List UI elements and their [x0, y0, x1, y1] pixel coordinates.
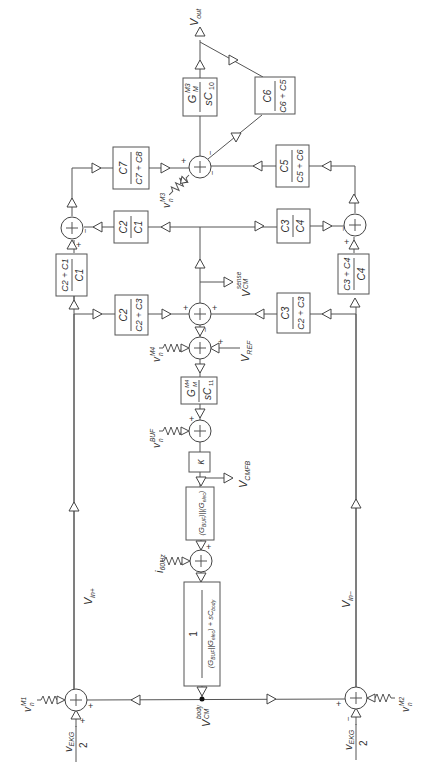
svg-text:n: n [406, 702, 413, 706]
svg-text:2: 2 [358, 740, 369, 746]
svg-text:G: G [186, 94, 198, 103]
svg-text:G: G [186, 389, 197, 397]
svg-text:−: − [344, 716, 353, 721]
vin-minus-label: Vin− [340, 591, 354, 608]
svg-text:C6 + C5: C6 + C5 [278, 78, 288, 112]
svg-text:Vout: Vout [188, 8, 202, 26]
block-gm4: G M M4 sC 11 [181, 377, 217, 404]
svg-text:M3: M3 [159, 193, 166, 202]
svg-text:−: − [208, 170, 217, 175]
svg-text:1: 1 [188, 631, 199, 637]
svg-text:C2 + C3: C2 + C3 [134, 298, 144, 331]
i60hz-label: i60Hz [153, 554, 166, 573]
svg-text:C3 + C4: C3 + C4 [342, 257, 352, 290]
svg-text:i60Hz: i60Hz [153, 554, 166, 573]
svg-text:Vin+: Vin+ [82, 588, 96, 605]
vcm-body-node [200, 697, 205, 702]
svg-text:−: − [206, 150, 215, 155]
vout-label: Vout [188, 8, 202, 26]
block-c3-c4: C3 C4 [277, 209, 310, 243]
svg-text:2: 2 [78, 742, 89, 748]
svg-text:M1: M1 [20, 697, 27, 706]
svg-text:C5 + C6: C5 + C6 [295, 149, 305, 182]
block-c3-plus-c4: C3 + C4 C4 [338, 254, 369, 294]
sum-bottom-left [65, 689, 87, 711]
svg-text:−: − [81, 228, 90, 233]
svg-text:C1: C1 [74, 269, 85, 282]
svg-text:10: 10 [208, 82, 215, 90]
cmfb-block-diagram: G M M3 sC 10 C6 C6 + C5 C7 C7 + C8 C5 C5… [0, 0, 430, 778]
block-c2-plus-c1: C2 + C1 C1 [56, 254, 87, 296]
vin-plus-label: Vin+ [82, 588, 96, 605]
svg-text:VREF: VREF [239, 340, 253, 362]
svg-text:M2: M2 [398, 697, 405, 706]
svg-text:C7 + C8: C7 + C8 [134, 151, 144, 184]
vcm-body-label: V CM body [195, 704, 212, 727]
svg-text:+: + [344, 237, 349, 247]
sum-middle [189, 303, 211, 325]
svg-text:sC: sC [202, 387, 213, 400]
svg-text:sense: sense [235, 271, 242, 289]
svg-text:M3: M3 [184, 83, 191, 93]
sum-right-upper [344, 214, 366, 236]
vekg-left-label: vEKG 2 [62, 726, 89, 762]
svg-text:+: + [76, 240, 81, 250]
vn-m1-label: v n M1 [20, 697, 35, 712]
block-c5: C5 C5 + C6 [276, 145, 309, 187]
svg-text:+: + [218, 337, 223, 347]
svg-text:+: + [88, 701, 93, 711]
block-gbuf-gelec: (GBUF)||(Gelec) [186, 487, 214, 540]
svg-text:M: M [192, 382, 198, 387]
svg-text:vEKG: vEKG [342, 729, 355, 750]
svg-text:n: n [167, 198, 174, 202]
block-c7: C7 C7 + C8 [113, 147, 149, 189]
svg-text:C4: C4 [356, 267, 367, 280]
svg-text:C3: C3 [280, 306, 291, 319]
block-kappa: κ [189, 452, 210, 472]
vcm-sense-label: V CM sense [235, 271, 252, 297]
svg-text:C1: C1 [133, 221, 144, 234]
svg-text:n: n [157, 438, 164, 442]
svg-text:Vin−: Vin− [340, 591, 354, 608]
block-body: 1 (GBUF||Gelec) + sCbody [184, 582, 220, 686]
svg-text:C6: C6 [262, 89, 273, 102]
sum-vref [189, 337, 211, 359]
svg-text:n: n [28, 702, 35, 706]
svg-text:C3: C3 [280, 219, 291, 232]
svg-text:+: + [189, 414, 194, 424]
svg-text:C2: C2 [118, 220, 129, 233]
svg-text:M4: M4 [184, 379, 190, 388]
svg-text:M4: M4 [149, 347, 156, 356]
block-c2-c1: C2 C1 [114, 211, 148, 243]
sum-bottom-right [345, 687, 367, 709]
svg-text:CM: CM [203, 708, 210, 719]
sum-60hz [190, 550, 212, 572]
svg-text:C2: C2 [118, 308, 129, 321]
svg-text:−: − [201, 327, 210, 332]
svg-text:+: + [206, 542, 211, 552]
svg-text:11: 11 [208, 379, 214, 386]
svg-text:n: n [157, 352, 164, 356]
block-c6: C6 C6 + C5 [255, 77, 295, 114]
svg-text:vEKG: vEKG [62, 731, 75, 752]
vref-label: VREF [239, 340, 253, 362]
sum-left-upper [61, 217, 83, 239]
svg-text:CM: CM [242, 278, 249, 289]
svg-text:+: + [183, 303, 188, 313]
svg-text:M: M [192, 86, 199, 92]
svg-text:+: + [336, 699, 341, 709]
svg-text:+: + [212, 303, 217, 313]
vekg-right-label: vEKG 2 [342, 724, 369, 760]
vn-m4-label: v n M4 [149, 347, 164, 362]
svg-text:−: − [339, 226, 348, 231]
vn-m3-label: v n M3 [159, 193, 174, 208]
svg-text:sC: sC [202, 92, 214, 106]
block-c2-over-c23: C2 C2 + C3 [115, 295, 148, 335]
svg-text:body: body [195, 704, 203, 719]
svg-text:C7: C7 [118, 161, 129, 174]
block-gm3: G M M3 sC 10 [183, 78, 217, 116]
svg-text:+: + [80, 716, 85, 726]
block-c3-over-c23: C3 C2 + C3 [277, 293, 310, 333]
svg-text:C4: C4 [295, 219, 306, 232]
vcmfb-label: VCMFB [237, 460, 251, 488]
